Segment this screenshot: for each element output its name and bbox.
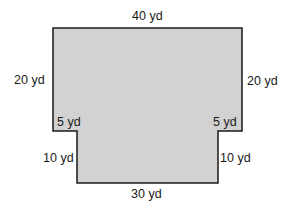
composite-shape xyxy=(53,28,242,183)
label-bottom: 30 yd xyxy=(131,188,162,201)
label-right-step: 5 yd xyxy=(213,116,237,129)
label-left-lower: 10 yd xyxy=(43,152,74,165)
label-right-upper: 20 yd xyxy=(247,75,278,88)
composite-shape-diagram xyxy=(0,0,291,213)
label-left-upper: 20 yd xyxy=(14,74,45,87)
label-right-lower: 10 yd xyxy=(220,152,251,165)
label-left-step: 5 yd xyxy=(57,116,81,129)
label-top: 40 yd xyxy=(132,10,163,23)
